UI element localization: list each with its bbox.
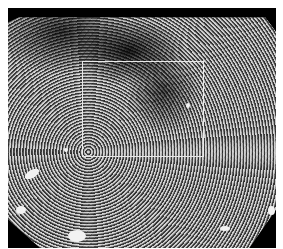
- light-reflection: [68, 230, 86, 242]
- light-reflection: [220, 226, 230, 231]
- region-of-interest-box: [82, 61, 204, 157]
- light-reflection: [16, 206, 26, 214]
- light-reflection: [268, 206, 275, 215]
- light-reflection: [64, 148, 68, 152]
